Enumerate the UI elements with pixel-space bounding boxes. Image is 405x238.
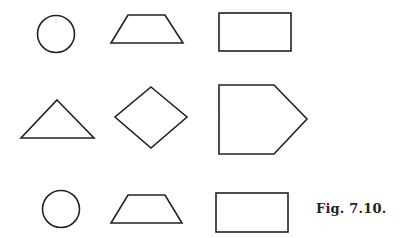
row3-circle: [43, 191, 80, 228]
row2-triangle: [21, 100, 94, 138]
row3-rectangle: [216, 193, 288, 232]
row1-trapezoid: [111, 15, 183, 43]
figure-caption: Fig. 7.10.: [316, 201, 387, 216]
row2-rhombus: [115, 87, 187, 148]
row1-circle: [38, 16, 75, 53]
row1-rectangle: [219, 13, 291, 51]
row2-pentagon: [219, 85, 307, 154]
row3-trapezoid: [111, 195, 182, 223]
